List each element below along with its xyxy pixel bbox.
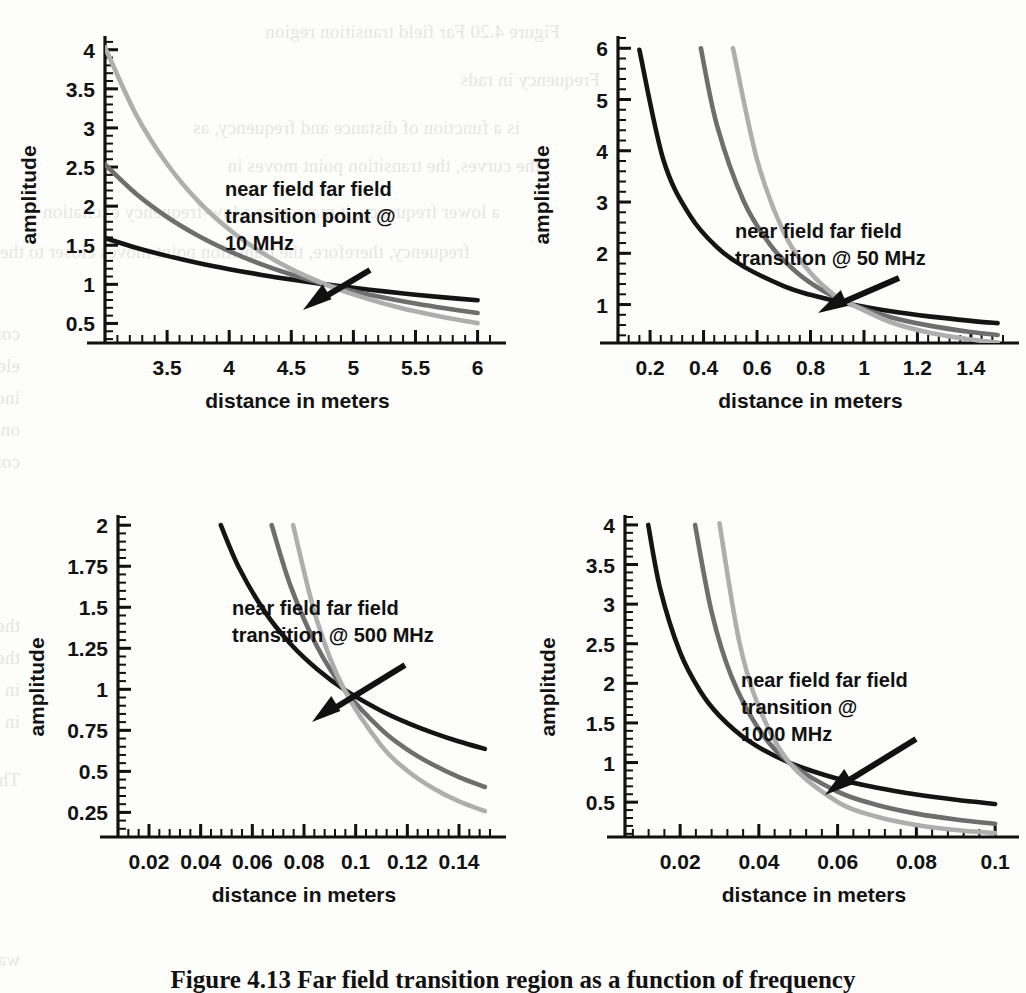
y-tick-label: 3.5 xyxy=(66,78,96,101)
x-axis-label: distance in meters xyxy=(718,389,902,412)
y-tick-label: 1.75 xyxy=(67,555,108,578)
x-tick-label: 0.02 xyxy=(129,850,170,873)
y-tick-label: 4 xyxy=(603,514,615,537)
x-tick-label: 0.8 xyxy=(796,356,826,379)
y-tick-label: 1 xyxy=(96,678,108,701)
x-tick-label: 0.08 xyxy=(896,850,937,873)
y-tick-label: 6 xyxy=(596,37,608,60)
y-tick-label: 2.5 xyxy=(66,156,96,179)
y-tick-label: 5 xyxy=(596,89,608,112)
x-tick-label: 0.6 xyxy=(742,356,771,379)
y-axis-label: amplitude xyxy=(530,145,553,244)
x-tick-label: 0.04 xyxy=(738,850,779,873)
annotation-arrow-shaft xyxy=(845,739,916,782)
x-axis-label: distance in meters xyxy=(722,883,906,906)
y-tick-label: 4 xyxy=(83,39,95,62)
x-tick-label: 0.1 xyxy=(341,850,371,873)
y-tick-label: 0.5 xyxy=(66,312,96,335)
x-tick-label: 4 xyxy=(223,356,235,379)
y-tick-label: 2 xyxy=(83,195,95,218)
plot-50mhz-svg: 1234560.20.40.60.811.21.4near field far … xyxy=(513,10,1026,450)
annotation-line: transition @ 500 MHz xyxy=(232,624,434,646)
y-tick-label: 1.5 xyxy=(79,596,109,619)
x-tick-label: 0.2 xyxy=(635,356,664,379)
y-tick-label: 1.5 xyxy=(586,712,616,735)
annotation-line: near field far field xyxy=(232,597,399,619)
plot-500mhz: 0.250.50.7511.251.51.7520.020.040.060.08… xyxy=(0,487,513,937)
curve-1-r-3 xyxy=(293,525,485,811)
x-tick-label: 0.04 xyxy=(180,850,221,873)
plot-1000mhz: 0.511.522.533.540.020.040.060.080.1near … xyxy=(513,487,1026,937)
plot-500mhz-svg: 0.250.50.7511.251.51.7520.020.040.060.08… xyxy=(0,487,513,937)
curve-1-r-3 xyxy=(733,48,998,342)
y-tick-label: 2 xyxy=(603,672,615,695)
y-tick-label: 2 xyxy=(596,242,608,265)
y-tick-label: 4 xyxy=(596,140,608,163)
y-axis-label: amplitude xyxy=(25,637,48,736)
x-tick-label: 0.4 xyxy=(689,356,719,379)
x-tick-label: 4.5 xyxy=(277,356,307,379)
y-tick-label: 3 xyxy=(603,593,615,616)
x-tick-label: 3.5 xyxy=(152,356,182,379)
x-tick-label: 6 xyxy=(472,356,484,379)
plot-50mhz: 1234560.20.40.60.811.21.4near field far … xyxy=(513,10,1026,450)
plot-1000mhz-svg: 0.511.522.533.540.020.040.060.080.1near … xyxy=(513,487,1026,937)
annotation-line: transition point @ xyxy=(225,205,396,227)
x-axis-label: distance in meters xyxy=(212,883,396,906)
plot-10mhz: 0.511.522.533.543.544.555.56near field f… xyxy=(0,10,513,450)
y-tick-label: 0.25 xyxy=(67,801,108,824)
curve-1-r-2 xyxy=(701,48,998,335)
x-tick-label: 0.06 xyxy=(817,850,858,873)
annotation-line: 10 MHz xyxy=(225,232,294,254)
y-tick-label: 0.5 xyxy=(586,791,616,814)
x-tick-label: 0.1 xyxy=(981,850,1011,873)
x-tick-label: 1.2 xyxy=(903,356,932,379)
annotation-arrow-head xyxy=(312,696,340,722)
y-tick-label: 1 xyxy=(83,273,95,296)
x-tick-label: 0.12 xyxy=(387,850,428,873)
y-tick-label: 0.5 xyxy=(79,760,109,783)
x-tick-label: 0.08 xyxy=(284,850,325,873)
y-tick-label: 1.5 xyxy=(66,234,96,257)
x-tick-label: 5.5 xyxy=(401,356,431,379)
figure-caption: Figure 4.13 Far field transition region … xyxy=(0,963,1026,993)
x-tick-label: 0.02 xyxy=(660,850,701,873)
y-tick-label: 1.25 xyxy=(67,637,108,660)
annotation-line: transition @ xyxy=(741,696,857,718)
y-tick-label: 3 xyxy=(596,191,608,214)
y-tick-label: 1 xyxy=(596,294,608,317)
x-tick-label: 1 xyxy=(858,356,870,379)
annotation-line: 1000 MHz xyxy=(741,723,832,745)
annotation-line: near field far field xyxy=(225,178,392,200)
y-tick-label: 2.5 xyxy=(586,633,616,656)
y-axis-label: amplitude xyxy=(536,637,559,736)
y-tick-label: 0.75 xyxy=(67,719,108,742)
plot-10mhz-svg: 0.511.522.533.543.544.555.56near field f… xyxy=(0,10,513,450)
annotation-arrow-shaft xyxy=(840,278,899,303)
y-tick-label: 2 xyxy=(96,514,108,537)
x-tick-label: 5 xyxy=(348,356,360,379)
x-axis-label: distance in meters xyxy=(205,389,389,412)
x-tick-label: 0.06 xyxy=(232,850,273,873)
y-axis-label: amplitude xyxy=(17,145,40,244)
x-tick-label: 1.4 xyxy=(956,356,986,379)
y-tick-label: 1 xyxy=(603,752,615,775)
annotation-line: transition @ 50 MHz xyxy=(735,247,926,269)
annotation-line: near field far field xyxy=(741,669,908,691)
y-tick-label: 3 xyxy=(83,117,95,140)
annotation-arrow-head xyxy=(303,284,332,310)
annotation-line: near field far field xyxy=(735,220,902,242)
x-tick-label: 0.14 xyxy=(439,850,480,873)
y-tick-label: 3.5 xyxy=(586,554,616,577)
